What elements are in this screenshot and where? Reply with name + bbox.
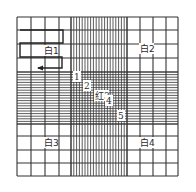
white-square-label-4: 白4	[140, 137, 155, 148]
red-square-label-5: 5	[118, 111, 124, 121]
arrow-head-icon	[37, 66, 43, 71]
white-square-label-1: 白1	[44, 45, 59, 56]
red-square-label-1: 1	[74, 72, 80, 82]
red-square-label-2: 2	[84, 81, 90, 91]
white-square-label-3: 白3	[44, 137, 59, 148]
counting-chamber-grid: 白1白2白3白412红345	[0, 0, 196, 192]
white-square-label-2: 白2	[140, 43, 155, 54]
red-square-label-4: 4	[106, 96, 112, 106]
